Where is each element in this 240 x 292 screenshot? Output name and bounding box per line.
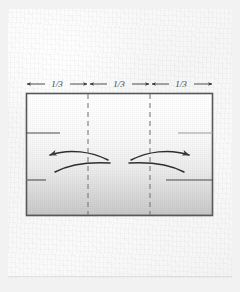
diagram-artwork: 1/3 1/3 1/3: [0, 0, 240, 292]
figure-canvas: 1/3 1/3 1/3: [0, 0, 240, 292]
dimension-right-third: 1/3: [152, 79, 212, 89]
dimension-label-right: 1/3: [175, 79, 187, 89]
dimension-center-third: 1/3: [90, 79, 149, 89]
dimension-row: 1/3 1/3 1/3: [27, 79, 212, 89]
dimension-label-center: 1/3: [113, 79, 125, 89]
dimension-label-left: 1/3: [51, 79, 63, 89]
dimension-left-third: 1/3: [27, 79, 87, 89]
